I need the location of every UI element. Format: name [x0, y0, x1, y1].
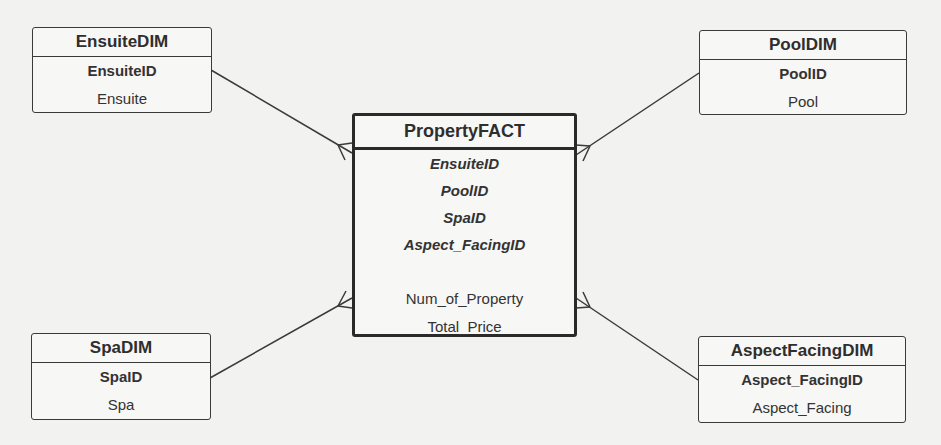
entity-title: SpaDIM: [32, 334, 210, 363]
entity-pool-dim[interactable]: PoolDIM PoolID Pool: [699, 30, 907, 115]
entity-property-fact[interactable]: PropertyFACT EnsuiteID PoolID SpaID Aspe…: [352, 113, 577, 337]
entity-title: PoolDIM: [700, 31, 906, 60]
attribute-field: Pool: [700, 88, 906, 116]
primary-key-field: PoolID: [700, 60, 906, 88]
foreign-key-field: EnsuiteID: [355, 150, 574, 177]
primary-key-field: Aspect_FacingID: [699, 366, 905, 394]
relationship-aspectfacing-fact: [576, 292, 698, 380]
attribute-field: Aspect_Facing: [699, 394, 905, 422]
entity-title: AspectFacingDIM: [699, 337, 905, 366]
relationship-pool-fact: [576, 73, 699, 161]
entity-aspectfacing-dim[interactable]: AspectFacingDIM Aspect_FacingID Aspect_F…: [698, 336, 906, 423]
foreign-key-field: PoolID: [355, 177, 574, 204]
attribute-field: Spa: [32, 391, 210, 419]
primary-key-field: SpaID: [32, 363, 210, 391]
foreign-key-field: Aspect_FacingID: [355, 231, 574, 258]
entity-ensuite-dim[interactable]: EnsuiteDIM EnsuiteID Ensuite: [32, 27, 212, 113]
field-spacer: [355, 258, 574, 285]
foreign-key-field: SpaID: [355, 204, 574, 231]
primary-key-field: EnsuiteID: [33, 57, 211, 85]
entity-spa-dim[interactable]: SpaDIM SpaID Spa: [31, 333, 211, 420]
measure-field: Num_of_Property: [355, 285, 574, 313]
attribute-field: Ensuite: [33, 85, 211, 113]
relationship-ensuite-fact: [211, 70, 352, 160]
entity-title: PropertyFACT: [355, 116, 574, 150]
entity-title: EnsuiteDIM: [33, 28, 211, 57]
relationship-spa-fact: [210, 291, 352, 378]
measure-field: Total_Price: [355, 313, 574, 341]
